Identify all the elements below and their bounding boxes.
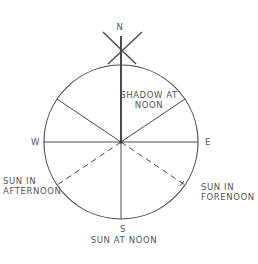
afternoon-sun-line xyxy=(57,142,121,185)
east-label: E xyxy=(205,137,211,147)
afternoon-shadow-line xyxy=(57,99,121,142)
north-label: N xyxy=(117,22,124,32)
center-point xyxy=(119,140,122,143)
west-label: W xyxy=(31,137,40,147)
shadow-at-noon-label-1: SHADOW AT xyxy=(120,90,178,100)
sun-in-forenoon-label-2: FORENOON xyxy=(201,192,255,202)
south-label: S xyxy=(120,224,126,234)
sun-in-afternoon-label-2: AFTERNOON xyxy=(3,186,62,196)
shadow-at-noon-label-2: NOON xyxy=(135,100,164,110)
sun-in-forenoon-label-1: SUN IN xyxy=(201,182,234,192)
sun-in-afternoon-label-1: SUN IN xyxy=(3,176,36,186)
gnomon-icon xyxy=(103,32,142,64)
sun-at-noon-label: SUN AT NOON xyxy=(91,235,157,245)
forenoon-sun-line xyxy=(121,142,185,185)
sundial-diagram: N W E S SUN AT NOON SHADOW AT NOON SUN I… xyxy=(0,0,258,264)
